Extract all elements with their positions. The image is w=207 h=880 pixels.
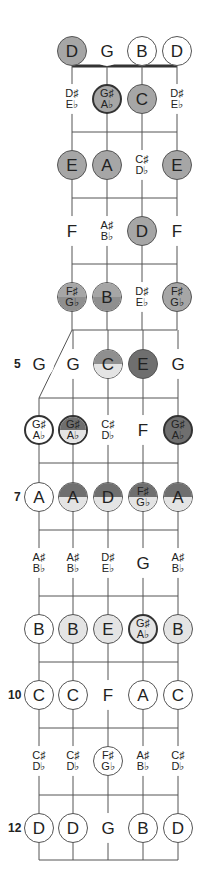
note-label: A♯B♭	[33, 552, 46, 574]
note-fret-0-string-0: D	[57, 36, 87, 66]
note-label: G	[32, 356, 45, 373]
note-fret-10-string-4: C	[163, 680, 193, 710]
fret-number-7: 7	[14, 490, 21, 504]
note-name: A	[33, 489, 44, 506]
note-enharmonic: G♭	[65, 297, 79, 308]
note-name: E	[137, 356, 148, 373]
note-name: A	[172, 489, 183, 506]
note-label: F	[138, 422, 148, 439]
note-label: D	[67, 820, 79, 837]
note-label: G	[101, 820, 114, 837]
note-label: G	[136, 555, 149, 572]
note-enharmonic: D♭	[101, 430, 114, 441]
note-label: A♯B♭	[137, 750, 150, 772]
banjo-fretboard-diagram: 571012 DGBDD♯E♭G♯A♭CD♯E♭EAC♯D♭EFA♯B♭DFF♯…	[0, 0, 207, 880]
note-enharmonic: D♭	[32, 761, 45, 772]
note-label: C♯D♭	[135, 154, 148, 176]
note-name: D	[136, 223, 148, 240]
note-fret-10-string-1: C	[58, 680, 88, 710]
note-fret-2-string-3: E	[162, 150, 192, 180]
note-fret-12-string-0: D	[24, 813, 54, 843]
note-name: G	[171, 356, 184, 373]
note-name: F	[172, 223, 182, 240]
note-fret-6-string-2: C♯D♭	[93, 415, 123, 445]
note-enharmonic: A♭	[171, 430, 185, 441]
note-name: D	[67, 820, 79, 837]
note-fret-8-string-3: G	[128, 548, 158, 578]
note-name: F	[67, 223, 77, 240]
note-fret-8-string-0: A♯B♭	[24, 548, 54, 578]
note-fret-7-string-3: F♯G♭	[128, 482, 158, 512]
note-fret-3-string-2: D	[127, 216, 157, 246]
note-label: D	[33, 820, 45, 837]
note-fret-9-string-2: E	[93, 614, 123, 644]
note-enharmonic: B♭	[67, 563, 80, 574]
note-label: G♯A♭	[136, 618, 150, 640]
note-name: F	[138, 422, 148, 439]
note-name: A	[101, 157, 112, 174]
note-fret-10-string-0: C	[24, 680, 54, 710]
fret-number-12: 12	[8, 821, 21, 835]
note-fret-0-string-2: B	[127, 36, 157, 66]
note-name: C	[33, 687, 45, 704]
note-fret-2-string-0: E	[57, 150, 87, 180]
note-label: B	[67, 621, 78, 638]
note-name: C	[136, 91, 148, 108]
note-fret-7-string-1: A	[58, 482, 88, 512]
note-fret-1-string-0: D♯E♭	[57, 84, 87, 114]
note-label: F	[172, 223, 182, 240]
note-label: D♯E♭	[135, 286, 148, 308]
note-enharmonic: D♭	[171, 761, 184, 772]
note-label: C	[33, 687, 45, 704]
note-fret-7-string-4: A	[163, 482, 193, 512]
note-fret-11-string-2: F♯G♭	[93, 746, 123, 776]
note-name: E	[171, 157, 182, 174]
note-name: G	[101, 820, 114, 837]
note-fret-11-string-3: A♯B♭	[128, 746, 158, 776]
note-label: F♯G♭	[136, 486, 150, 508]
note-label: B	[33, 621, 44, 638]
note-fret-0-string-1: G	[92, 36, 122, 66]
note-fret-9-string-3: G♯A♭	[128, 614, 158, 644]
note-label: C	[67, 687, 79, 704]
note-fret-0-string-3: D	[162, 36, 192, 66]
note-fret-8-string-1: A♯B♭	[58, 548, 88, 578]
note-label: G	[171, 356, 184, 373]
note-label: A	[33, 489, 44, 506]
note-name: B	[101, 289, 112, 306]
note-enharmonic: E♭	[135, 297, 148, 308]
note-name: D	[102, 489, 114, 506]
note-label: A	[101, 157, 112, 174]
note-label: D♯E♭	[170, 88, 183, 110]
note-label: E	[102, 621, 113, 638]
note-name: B	[137, 820, 148, 837]
note-label: A♯B♭	[172, 552, 185, 574]
note-label: F♯G♭	[170, 286, 184, 308]
note-fret-6-string-4: G♯A♭	[163, 415, 193, 445]
note-fret-9-string-0: B	[24, 614, 54, 644]
note-enharmonic: G♭	[136, 497, 150, 508]
note-fret-5-string-4: G	[163, 349, 193, 379]
note-name: D	[171, 43, 183, 60]
note-label: E	[171, 157, 182, 174]
note-name: D	[172, 820, 184, 837]
note-label: D	[102, 489, 114, 506]
note-fret-6-string-3: F	[128, 415, 158, 445]
note-name: D	[33, 820, 45, 837]
note-name: B	[172, 621, 183, 638]
note-fret-12-string-4: D	[163, 813, 193, 843]
note-name: G	[32, 356, 45, 373]
note-fret-5-string-1: G	[58, 349, 88, 379]
note-label: B	[172, 621, 183, 638]
note-label: C♯D♭	[171, 750, 184, 772]
note-label: C♯D♭	[32, 750, 45, 772]
fret-number-5: 5	[14, 357, 21, 371]
note-label: D	[171, 43, 183, 60]
note-enharmonic: A♭	[136, 629, 150, 640]
note-fret-11-string-0: C♯D♭	[24, 746, 54, 776]
note-enharmonic: B♭	[33, 563, 46, 574]
note-fret-6-string-1: G♯A♭	[58, 415, 88, 445]
note-fret-4-string-2: D♯E♭	[127, 282, 157, 312]
note-label: D♯E♭	[101, 552, 114, 574]
note-fret-4-string-1: B	[92, 282, 122, 312]
